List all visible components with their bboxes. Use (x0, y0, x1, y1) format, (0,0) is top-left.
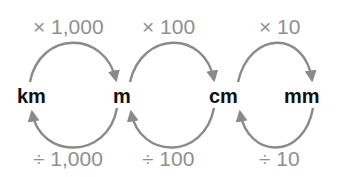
arrow-mm-to-cm (240, 108, 313, 148)
arrow-cm-to-mm (238, 43, 312, 82)
divide-label-cm-m: ÷ 100 (142, 148, 194, 169)
unit-cm: cm (209, 86, 238, 106)
unit-km: km (17, 86, 46, 106)
divide-label-m-km: ÷ 1,000 (33, 148, 103, 169)
multiply-label-cm-mm: × 10 (259, 16, 300, 37)
arrow-m-to-km (32, 108, 117, 148)
multiply-label-km-m: × 1,000 (33, 16, 104, 37)
multiply-label-m-cm: × 100 (142, 16, 195, 37)
unit-conversion-diagram: × 1,000 × 100 × 10 km m cm mm ÷ 1,000 ÷ … (0, 0, 356, 177)
unit-mm: mm (284, 86, 320, 106)
arrow-cm-to-m (131, 108, 214, 148)
arrow-m-to-cm (130, 43, 214, 82)
arrow-km-to-m (30, 43, 116, 82)
unit-m: m (113, 86, 131, 106)
divide-label-mm-cm: ÷ 10 (259, 148, 300, 169)
